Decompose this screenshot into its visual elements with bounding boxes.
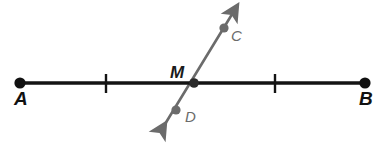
point-b-label: B [359, 88, 373, 109]
point-c-label: C [231, 27, 242, 44]
point-a-label: A [13, 88, 28, 109]
point-b-dot [359, 77, 370, 88]
geometry-figure: A B M C D [0, 0, 383, 158]
point-m-label: M [170, 63, 185, 82]
point-d-dot [171, 105, 180, 114]
point-m-dot [189, 78, 199, 88]
point-a-dot [14, 77, 25, 88]
point-c-dot [219, 23, 228, 32]
point-d-label: D [185, 108, 196, 125]
geometry-canvas: A B M C D [0, 0, 383, 158]
